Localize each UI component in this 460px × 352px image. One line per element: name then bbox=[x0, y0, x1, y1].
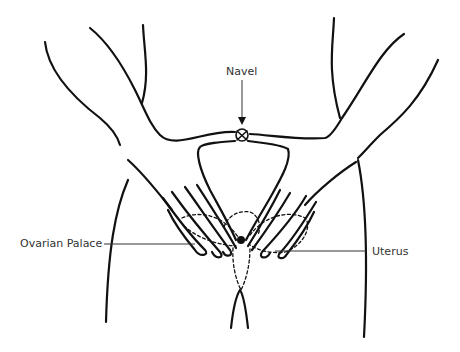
body-outline-right-hip bbox=[358, 160, 366, 337]
right-arm-outer bbox=[250, 34, 404, 138]
left-hand-fingers bbox=[163, 185, 240, 257]
navel-arrowhead-icon bbox=[238, 117, 246, 125]
lower-body-outline bbox=[231, 290, 248, 328]
left-arm-outer bbox=[90, 28, 235, 141]
right-forearm-lower bbox=[305, 162, 356, 205]
torso-hands-diagram bbox=[0, 0, 460, 352]
left-thumb bbox=[198, 141, 236, 240]
navel-label: Navel bbox=[226, 66, 257, 77]
body-outline-left-hip bbox=[106, 180, 128, 322]
left-arm-inner bbox=[142, 25, 146, 103]
right-hand-fingers bbox=[248, 190, 316, 258]
ovarian-palace-label: Ovarian Palace bbox=[20, 238, 102, 249]
uterus-label: Uterus bbox=[372, 246, 408, 257]
right-arm-inner bbox=[332, 18, 340, 118]
body-outline-left bbox=[45, 42, 120, 145]
ovary-center-mark bbox=[237, 236, 245, 244]
right-thumb bbox=[246, 141, 289, 240]
navel-marker bbox=[236, 129, 248, 141]
